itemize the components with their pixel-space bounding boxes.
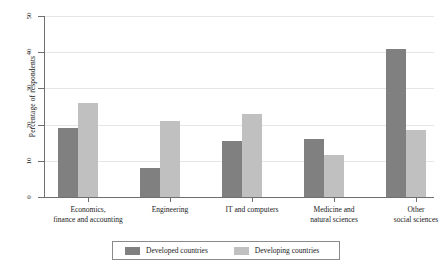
bar-engineering-developed[interactable] [140,168,160,197]
y-tick-10 [38,161,44,162]
legend: Developed countries Developing countries [112,241,340,260]
bar-economics-developed[interactable] [58,128,78,197]
bar-it-developing[interactable] [242,114,262,197]
bar-economics-developing[interactable] [78,103,98,197]
x-tick-economics [88,197,89,202]
bar-engineering-developing[interactable] [160,121,180,197]
y-tick-label-50: 50 [25,7,33,25]
legend-label-developing: Developing countries [255,246,319,255]
y-tick-40 [38,52,44,53]
plot-area [44,16,434,197]
bar-group-economics [58,16,98,197]
bar-it-developed[interactable] [222,141,242,197]
y-tick-label-40: 40 [25,43,33,61]
bar-other-developing[interactable] [406,130,426,197]
x-label-other-line2: social sciences [356,215,447,225]
y-tick-30 [38,88,44,89]
y-tick-50 [38,16,44,17]
x-label-economics-line2: finance and accounting [28,215,148,225]
bar-other-developed[interactable] [386,49,406,197]
y-tick-label-20: 20 [25,116,33,134]
bar-chart: Percentage of respondents [0,0,447,273]
bar-group-medicine [304,16,344,197]
legend-label-developed: Developed countries [146,246,208,255]
y-tick-label-10: 10 [25,152,33,170]
x-tick-engineering [170,197,171,202]
y-tick-label-30: 30 [25,79,33,97]
legend-item-developing[interactable]: Developing countries [234,246,319,255]
bar-medicine-developed[interactable] [304,139,324,197]
x-axis-line [44,197,434,198]
bar-medicine-developing[interactable] [324,155,344,197]
y-axis-line [44,16,45,198]
x-tick-other [416,197,417,202]
bar-group-other [386,16,426,197]
y-tick-20 [38,125,44,126]
bar-group-it [222,16,262,197]
bar-group-engineering [140,16,180,197]
y-tick-0 [38,197,44,198]
x-tick-it [252,197,253,202]
x-tick-medicine [334,197,335,202]
x-label-other: Other social sciences [356,205,447,224]
legend-item-developed[interactable]: Developed countries [125,246,208,255]
legend-swatch-developed-icon [125,247,140,255]
y-tick-label-0: 0 [25,188,33,206]
legend-swatch-developing-icon [234,247,249,255]
x-label-other-line1: Other [356,205,447,215]
